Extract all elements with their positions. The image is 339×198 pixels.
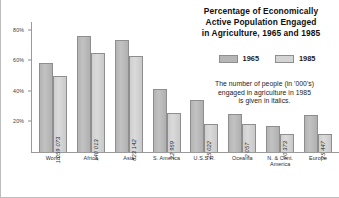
bar-1965 xyxy=(77,36,91,152)
bar-1985: 140 013 xyxy=(91,53,105,152)
x-tick-label: U.S.S.R. xyxy=(186,155,224,168)
y-tick-label: 20% xyxy=(13,118,24,124)
x-tick-label: N. & Cent.America xyxy=(261,155,299,168)
bar-group: 823 142 xyxy=(110,22,148,152)
y-axis: 20%40%60%80% xyxy=(6,22,28,152)
plot-area: 20%40%60%80% 1 059 073140 013823 14222 9… xyxy=(6,22,202,170)
y-tick-label: 80% xyxy=(13,27,24,33)
bar-group: 20 373 xyxy=(261,22,299,152)
bar-1985: 20 373 xyxy=(280,134,294,152)
bar-1965 xyxy=(190,100,204,152)
bar-group: 25 447 xyxy=(299,22,337,152)
x-tick-label: S. America xyxy=(148,155,186,168)
bar-group: 1 059 073 xyxy=(34,22,72,152)
bar-1985: 1 059 073 xyxy=(53,76,67,152)
bar-group: 25 022 xyxy=(186,22,224,152)
bar-1985: 25 022 xyxy=(204,124,218,152)
x-tick-label: Oceania xyxy=(223,155,261,168)
bar-1985: 22 959 xyxy=(167,113,181,152)
y-tick-label: 40% xyxy=(13,88,24,94)
bar-1965 xyxy=(153,89,167,152)
x-tick-label: Europe xyxy=(299,155,337,168)
bar-groups: 1 059 073140 013823 14222 95925 0222 057… xyxy=(31,22,339,152)
y-tick-label: 60% xyxy=(13,57,24,63)
x-tick-label: Asia xyxy=(110,155,148,168)
bar-group: 2 057 xyxy=(223,22,261,152)
x-axis-labels: WorldAfricaAsiaS. AmericaU.S.S.R.Oceania… xyxy=(31,155,339,168)
bar-group: 22 959 xyxy=(148,22,186,152)
bar-1965 xyxy=(266,126,280,152)
x-axis-line xyxy=(31,152,339,153)
bar-1985: 2 057 xyxy=(242,124,256,152)
bar-1965 xyxy=(115,40,129,152)
bar-1985: 823 142 xyxy=(129,56,143,152)
bar-1965 xyxy=(228,114,242,152)
bar-group: 140 013 xyxy=(72,22,110,152)
chart-title-line-1: Percentage of Economically xyxy=(186,6,336,17)
bar-1965 xyxy=(304,115,318,152)
bar-1965 xyxy=(39,63,53,152)
x-tick-label: World xyxy=(34,155,72,168)
x-tick-label: Africa xyxy=(72,155,110,168)
bar-1985: 25 447 xyxy=(318,134,332,152)
chart-figure: Percentage of Economically Active Popula… xyxy=(0,0,339,198)
